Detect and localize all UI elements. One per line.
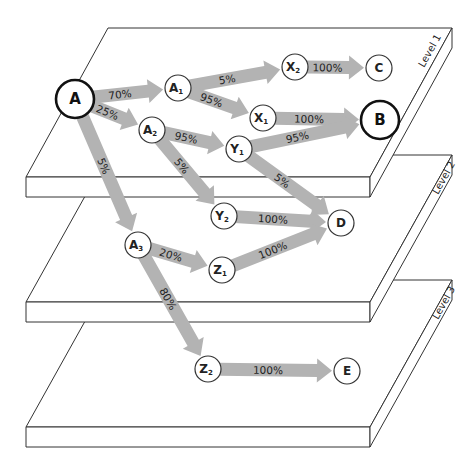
edge-percentage-label: 100% — [258, 212, 289, 226]
edge-percentage-label: 100% — [253, 364, 283, 376]
node-label: E — [343, 364, 351, 378]
node-z2: Z2 — [195, 356, 221, 382]
node-x1: X1 — [250, 105, 276, 131]
node-label: D — [336, 216, 346, 230]
node-y1: Y1 — [226, 136, 252, 162]
node-a: A — [56, 80, 94, 118]
node-label: A — [69, 90, 81, 108]
edge-z2-to-e: 100% — [219, 359, 332, 383]
node-a2: A2 — [139, 117, 165, 143]
edge-percentage-label: 70% — [108, 87, 133, 101]
node-b: B — [361, 101, 399, 139]
node-x2: X2 — [282, 54, 308, 80]
node-y2: Y2 — [211, 203, 237, 229]
edge-y1-to-d: 5% — [244, 150, 329, 215]
layered-flow-diagram: Level 3 Level 2 Level 1 70%25%5%5%95%100… — [0, 0, 468, 470]
edge-a1-to-x1: 95% — [186, 86, 249, 120]
edge-percentage-label: 100% — [312, 61, 342, 73]
edge-a-to-a2: 25% — [88, 99, 138, 130]
edge-percentage-label: 100% — [294, 113, 324, 126]
edge-a-to-a1: 70% — [91, 79, 163, 103]
node-d: D — [328, 210, 354, 236]
node-label: B — [374, 111, 385, 129]
flow-graph: 70%25%5%5%95%100%100%95%5%95%5%100%20%80… — [0, 0, 468, 470]
edge-percentage-label: 95% — [174, 129, 199, 146]
edge-x2-to-c: 100% — [306, 56, 364, 80]
edge-a-to-a3: 5% — [76, 112, 137, 231]
edge-z1-to-d: 100% — [230, 223, 327, 272]
node-label: C — [375, 61, 384, 75]
node-a1: A1 — [165, 75, 191, 101]
node-c: C — [366, 55, 392, 81]
node-z1: Z1 — [209, 257, 235, 283]
edge-percentage-label: 95% — [285, 129, 310, 145]
node-a3: A3 — [125, 232, 151, 258]
edge-a1-to-x2: 5% — [188, 61, 281, 93]
node-e: E — [334, 358, 360, 384]
edge-percentage-label: 100% — [257, 239, 289, 261]
